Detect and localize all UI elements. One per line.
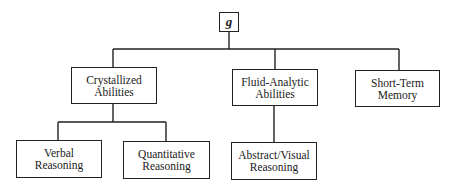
node-g-label: g	[226, 16, 233, 28]
node-label-line: Abilities	[94, 86, 134, 98]
node-g: g	[219, 12, 239, 32]
node-label-line: Crystallized	[86, 74, 142, 86]
node-short-term-memory: Short-Term Memory	[355, 70, 440, 107]
node-label-line: Fluid-Analytic	[241, 76, 309, 88]
node-label-line: Short-Term	[371, 77, 424, 89]
node-label-line: Quantitative	[138, 148, 195, 160]
node-abstract-visual-reasoning: Abstract/Visual Reasoning	[231, 142, 317, 180]
node-label-line: Verbal	[44, 147, 74, 159]
node-quantitative-reasoning: Quantitative Reasoning	[123, 141, 210, 179]
node-label-line: Abstract/Visual	[238, 149, 310, 161]
node-label-line: Reasoning	[142, 160, 191, 172]
node-label-line: Reasoning	[250, 161, 299, 173]
node-label-line: Reasoning	[35, 159, 84, 171]
node-fluid-analytic-abilities: Fluid-Analytic Abilities	[232, 69, 318, 106]
node-label-line: Memory	[378, 89, 418, 101]
node-label-line: Abilities	[255, 88, 295, 100]
node-crystallized-abilities: Crystallized Abilities	[71, 67, 157, 104]
node-verbal-reasoning: Verbal Reasoning	[16, 140, 102, 178]
